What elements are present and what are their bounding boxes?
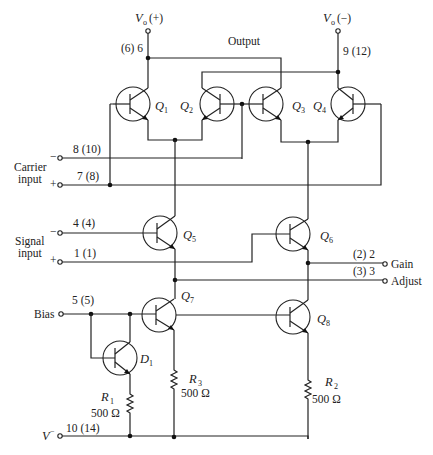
svg-text:7 (8): 7 (8) (77, 170, 99, 183)
signal-input: Signal input − + 4 (4) 1 (1) (15, 217, 96, 266)
svg-text:Q: Q (313, 99, 322, 113)
vminus-node (58, 434, 62, 438)
transistor-q3: Q 3 (242, 87, 305, 121)
svg-text:500 Ω: 500 Ω (181, 387, 210, 399)
output-label: Output (228, 35, 261, 48)
vo-minus-node (336, 29, 340, 33)
wire-q3q4-emitters (281, 120, 338, 142)
svg-text:D: D (139, 352, 149, 366)
svg-text:9 (12): 9 (12) (343, 45, 371, 58)
svg-text:4: 4 (322, 106, 326, 115)
svg-text:R: R (324, 375, 333, 389)
svg-text:Bias: Bias (34, 308, 55, 320)
svg-text:+: + (50, 178, 57, 190)
circuit-diagram: V o (+) (6) 6 Output V o (−) 9 (12) Q 1 … (0, 0, 433, 455)
transistor-q2: Q 2 (180, 87, 242, 121)
resistor-r2-label: R 2 500 Ω (312, 375, 341, 405)
gain-terminal (383, 262, 387, 266)
svg-text:1: 1 (110, 397, 114, 406)
bias-input: Bias 5 (5) (34, 294, 94, 320)
svg-text:10 (14): 10 (14) (66, 422, 100, 435)
carrier-plus-terminal (58, 183, 62, 187)
svg-text:5: 5 (192, 235, 196, 244)
resistor-r2 (305, 333, 311, 439)
svg-text:R: R (100, 390, 109, 404)
signal-plus-terminal (58, 260, 62, 264)
svg-text:Q: Q (155, 99, 164, 113)
gain-label: Gain (391, 258, 414, 270)
wire-q1-base (110, 104, 113, 185)
vo-minus-terminal: V o (−) 9 (12) (323, 11, 371, 58)
svg-text:1: 1 (149, 359, 153, 368)
signal-minus-terminal (58, 231, 62, 235)
bias-terminal (59, 312, 63, 316)
svg-text:o: o (331, 18, 335, 27)
resistor-r1 (127, 374, 133, 436)
svg-text:(6) 6: (6) 6 (121, 42, 143, 55)
svg-text:−: − (50, 150, 57, 162)
svg-text:2: 2 (189, 106, 193, 115)
svg-text:2: 2 (334, 382, 338, 391)
transistor-q4: Q 4 (313, 87, 381, 121)
vo-plus-node (146, 29, 150, 33)
svg-text:5 (5): 5 (5) (72, 294, 94, 307)
vminus-terminal: V − 10 (14) (42, 422, 100, 443)
gain-pin: (2) 2 (353, 248, 375, 261)
transistor-q7: Q 7 (142, 289, 194, 332)
svg-text:8: 8 (326, 319, 330, 328)
svg-text:Q: Q (180, 99, 189, 113)
svg-text:500 Ω: 500 Ω (312, 393, 341, 405)
svg-text:+: + (50, 254, 57, 266)
resistor-r3-label: R 3 500 Ω (181, 372, 210, 399)
svg-text:Q: Q (320, 229, 329, 243)
wire-q2-q4-collector (202, 72, 338, 88)
svg-text:Q: Q (183, 228, 192, 242)
svg-text:−: − (50, 427, 55, 436)
adjust-label: Adjust (391, 275, 422, 288)
svg-text:3: 3 (301, 106, 305, 115)
carrier-minus-terminal (58, 156, 62, 160)
adjust-terminal (383, 279, 387, 283)
wire-q1-q3-collector (148, 58, 281, 88)
svg-text:input: input (18, 247, 42, 260)
svg-text:Q: Q (317, 312, 326, 326)
svg-text:8 (10): 8 (10) (73, 143, 101, 156)
wire-q1q2-emitters (148, 120, 202, 140)
svg-text:input: input (18, 173, 42, 186)
svg-text:R: R (188, 372, 197, 386)
wire-d1-base (91, 314, 115, 358)
resistor-r3 (171, 330, 177, 437)
svg-text:1: 1 (164, 106, 168, 115)
svg-text:o: o (143, 18, 147, 27)
resistor-r1-label: R 1 500 Ω (91, 390, 120, 419)
svg-text:Carrier: Carrier (14, 161, 47, 173)
svg-text:Q: Q (292, 99, 301, 113)
vo-plus-terminal: V o (+) (6) 6 (121, 11, 163, 55)
svg-text:(−): (−) (337, 12, 351, 25)
svg-text:Q: Q (181, 289, 190, 303)
svg-text:−: − (50, 225, 57, 237)
transistor-q8: Q 8 (276, 300, 330, 334)
svg-text:4 (4): 4 (4) (73, 217, 95, 230)
carrier-input: Carrier input − + 8 (10) 7 (8) (14, 143, 101, 190)
transistor-q1: Q 1 (113, 87, 168, 121)
adjust-pin: (3) 3 (353, 265, 375, 278)
svg-text:1 (1): 1 (1) (74, 247, 96, 260)
svg-text:500 Ω: 500 Ω (91, 407, 120, 419)
svg-text:(+): (+) (149, 12, 163, 25)
wire-vminus-rail (62, 436, 308, 439)
svg-text:7: 7 (190, 296, 194, 305)
svg-text:6: 6 (329, 236, 333, 245)
